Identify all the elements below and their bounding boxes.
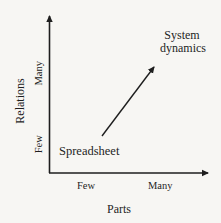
x-tick-many: Many [148,181,173,192]
y-tick-few: Few [34,129,45,159]
system-dynamics-line2: dynamics [160,42,204,55]
x-tick-few: Few [77,181,95,192]
x-axis-title: Parts [107,203,131,215]
system-dynamics-label: System dynamics [160,29,204,55]
y-axis-title: Relations [14,71,26,131]
spreadsheet-label: Spreadsheet [59,145,119,158]
trend-arrow [102,67,154,136]
y-tick-many: Many [34,58,45,88]
diagram-canvas: System dynamics Spreadsheet Few Many Par… [0,0,221,223]
